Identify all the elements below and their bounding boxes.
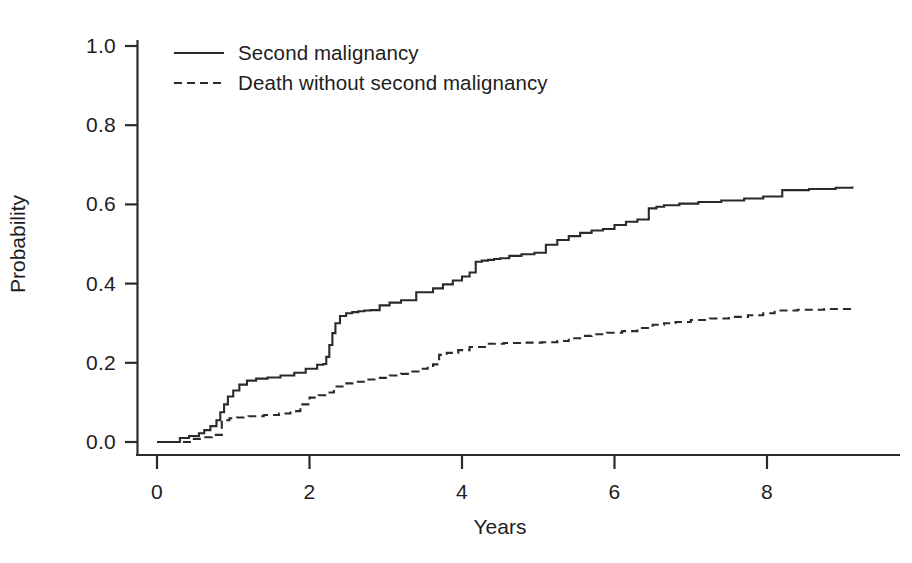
x-tick-label: 4 — [456, 480, 468, 504]
x-axis-ticks — [157, 455, 767, 469]
x-tick-label: 0 — [151, 480, 163, 504]
y-tick-label: 0.8 — [62, 113, 116, 137]
x-tick-label: 8 — [761, 480, 773, 504]
y-tick-label: 0.4 — [62, 272, 116, 296]
legend-item-second-malignancy: Second malignancy — [173, 38, 603, 68]
x-tick-label: 2 — [304, 480, 316, 504]
legend-swatch-dashed-icon — [173, 76, 225, 90]
y-tick-label: 1.0 — [62, 34, 116, 58]
legend-item-death-without-second-malignancy: Death without second malignancy — [173, 68, 603, 98]
legend-label-death-without-second-malignancy: Death without second malignancy — [238, 71, 548, 95]
legend: Second malignancy Death without second m… — [173, 38, 603, 98]
y-tick-label: 0.6 — [62, 192, 116, 216]
y-axis-title: Probability — [6, 195, 30, 293]
y-tick-label: 0.2 — [62, 351, 116, 375]
x-axis-title: Years — [474, 515, 527, 539]
legend-label-second-malignancy: Second malignancy — [238, 41, 419, 65]
series-layer — [157, 187, 852, 442]
series-line-death-without-second-malignancy — [157, 308, 852, 442]
figure-container: 0.00.20.40.60.81.0 02468 Probability Yea… — [0, 0, 912, 563]
legend-swatch-solid-icon — [173, 46, 225, 60]
y-tick-label: 0.0 — [62, 430, 116, 454]
x-tick-label: 6 — [609, 480, 621, 504]
y-axis-ticks — [125, 46, 138, 442]
